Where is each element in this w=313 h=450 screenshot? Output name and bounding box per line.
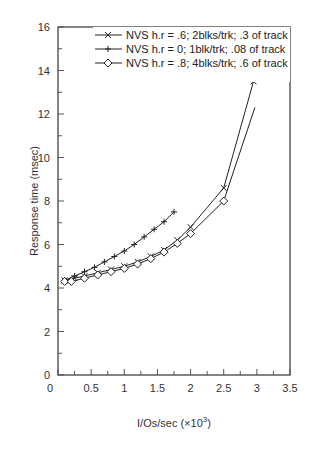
y-tick-label: 2 (44, 326, 50, 338)
x-axis-label: I/Os/sec (×103) (137, 415, 211, 429)
series-2 (62, 209, 177, 284)
x-tick-label: 0.5 (83, 382, 98, 394)
x-tick-label: 1 (121, 382, 127, 394)
y-tick-label: 4 (44, 282, 50, 294)
legend-label: NVS h.r = 0; 1blk/trk; .08 of track (126, 43, 286, 55)
legend-label: NVS h.r = .6; 2blks/trk; .3 of track (126, 29, 288, 41)
x-axis: 00.511.522.533.5 (47, 369, 298, 394)
x-tick-label: 1.5 (150, 382, 165, 394)
series-3 (61, 108, 255, 286)
series-1 (62, 78, 257, 283)
y-tick-label: 14 (38, 65, 50, 77)
legend-label: NVS h.r = .8; 4blks/trk; .6 of track (126, 57, 288, 69)
y-axis: 0246810121416 (38, 21, 64, 381)
y-tick-label: 6 (44, 239, 50, 251)
y-axis-label: Response time (msec) (28, 146, 40, 256)
y-tick-label: 8 (44, 195, 50, 207)
legend: NVS h.r = .6; 2blks/trk; .3 of trackNVS … (93, 27, 290, 82)
x-tick-label: 3 (254, 382, 260, 394)
x-tick-label: 2 (188, 382, 194, 394)
y-tick-label: 12 (38, 108, 50, 120)
x-tick-label: 0 (47, 382, 53, 394)
y-tick-label: 16 (38, 21, 50, 33)
line-chart: 0246810121416 00.511.522.533.5 Response … (0, 0, 313, 450)
series-layer (61, 78, 257, 285)
x-tick-label: 2.5 (216, 382, 231, 394)
y-tick-label: 0 (44, 369, 50, 381)
x-tick-label: 3.5 (282, 382, 297, 394)
